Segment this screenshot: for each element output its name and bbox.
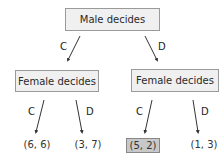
node-female-decides-left: Female decides xyxy=(15,70,99,92)
edge-right-d xyxy=(193,100,198,132)
edge-male-c xyxy=(68,36,80,60)
edge-right-c xyxy=(145,100,152,132)
edge-left-d xyxy=(76,100,82,132)
edge-label-d: D xyxy=(158,41,166,52)
node-female-decides-right: Female decides xyxy=(131,69,219,92)
edge-label-d: D xyxy=(86,106,94,117)
node-label: Female decides xyxy=(136,75,214,86)
payoff-dd: (1, 3) xyxy=(187,139,221,150)
node-male-decides: Male decides xyxy=(65,8,160,31)
payoff-dc-highlighted: (5, 2) xyxy=(126,138,160,153)
node-label: Female decides xyxy=(18,76,96,87)
payoff-cd: (3, 7) xyxy=(71,139,105,150)
edge-label-c: C xyxy=(28,106,35,117)
edge-label-c: C xyxy=(60,41,67,52)
edge-label-d: D xyxy=(201,106,209,117)
edge-left-c xyxy=(36,100,44,132)
node-label: Male decides xyxy=(80,14,145,25)
edge-label-c: C xyxy=(136,106,143,117)
payoff-cc: (6, 6) xyxy=(20,139,54,150)
edge-male-d xyxy=(145,36,157,60)
